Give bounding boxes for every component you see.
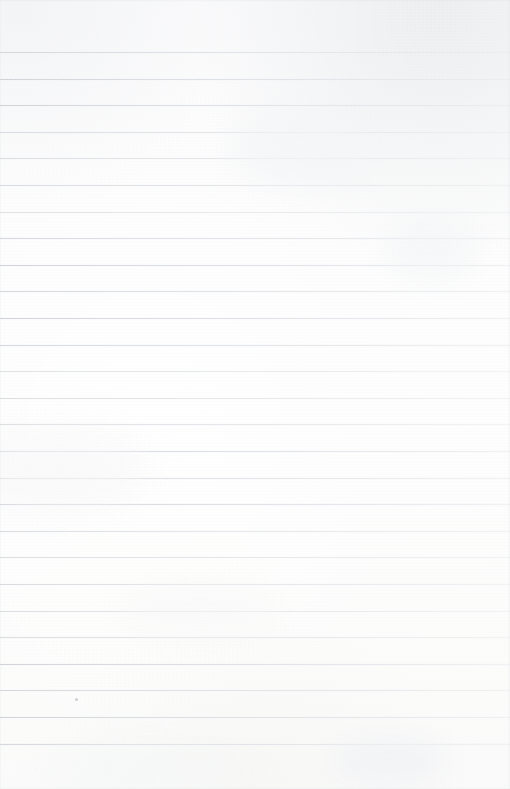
ruled-line-halo [0,157,510,160]
ruled-line [0,531,510,532]
scanned-page [0,0,510,789]
ruled-line [0,424,510,425]
ruled-line [0,238,510,239]
ruled-line [0,504,510,505]
paper-grain-texture [0,0,510,789]
ruled-line [0,52,510,53]
scan-smudge [120,583,280,638]
scan-smudge [335,738,445,783]
ruled-line [0,79,510,80]
ruled-line-halo [0,211,510,214]
ruled-line [0,371,510,372]
ruled-line-halo [0,503,510,506]
ruled-line-halo [0,78,510,81]
ruled-line-halo [0,423,510,426]
ruled-line-halo [0,716,510,719]
ruled-line [0,398,510,399]
ruled-line [0,584,510,585]
ruled-line [0,185,510,186]
ruled-line [0,212,510,213]
ruled-line [0,265,510,266]
ruled-line [0,637,510,638]
ruled-line [0,451,510,452]
ruled-line [0,158,510,159]
ruled-line [0,611,510,612]
ruled-line [0,557,510,558]
ruled-line-halo [0,743,510,746]
debris-speck [75,698,78,701]
ruled-line-halo [0,450,510,453]
ruled-line-halo [0,51,510,54]
ruled-line-halo [0,344,510,347]
scan-smudge [230,115,370,185]
scan-smudge [0,430,145,510]
ruled-line [0,690,510,691]
ruled-line-halo [0,636,510,639]
ruled-line [0,345,510,346]
ruled-line [0,744,510,745]
ruled-line [0,664,510,665]
ruled-line [0,478,510,479]
ruled-line-halo [0,556,510,559]
ruled-line-halo [0,663,510,666]
ruled-line-halo [0,530,510,533]
ruled-line [0,132,510,133]
ruled-line-halo [0,370,510,373]
ruled-line-halo [0,397,510,400]
ruled-line [0,318,510,319]
ruled-line-halo [0,290,510,293]
ruled-line-halo [0,264,510,267]
ruled-line-halo [0,583,510,586]
ruled-line-halo [0,237,510,240]
ruled-line-halo [0,689,510,692]
ruled-line [0,105,510,106]
ruled-line [0,291,510,292]
ruled-line-halo [0,131,510,134]
ruled-line-halo [0,317,510,320]
ruled-line [0,717,510,718]
scan-smudge [50,750,250,789]
ruled-line-halo [0,184,510,187]
ruled-lines-layer [0,0,510,789]
scan-smudge [385,220,475,280]
ruled-line-halo [0,610,510,613]
ruled-line-halo [0,104,510,107]
page-edge-shading [0,0,510,789]
ruled-line-halo [0,477,510,480]
